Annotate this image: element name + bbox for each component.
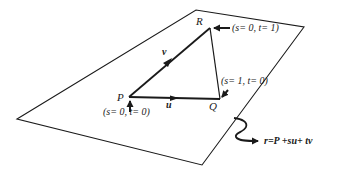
label-u: u [166,99,172,110]
param-r: (s= 0, t= 1) [232,22,279,34]
label-p: P [116,91,124,103]
edge-rq-line [210,28,220,99]
label-r: R [195,15,203,27]
plane-outline [17,10,304,165]
label-v: v [162,46,167,57]
plane-diagram: R P Q v u (s= 0, t= 1) (s= 0, t= 0) (s= … [0,0,344,173]
param-q: (s= 1, t= 0) [221,75,268,87]
plane-equation: r=P +su+ tv [264,135,313,146]
param-p: (s= 0, t= 0) [103,106,150,118]
squiggle-arrow [234,118,258,141]
label-q: Q [209,100,217,112]
pointer-arrow-q [222,90,228,97]
